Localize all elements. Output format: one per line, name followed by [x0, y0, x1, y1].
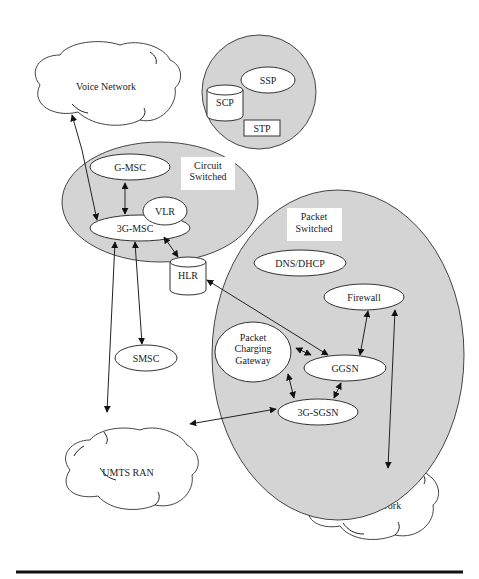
hlr-label: HLR	[178, 270, 198, 281]
g-msc-node: G-MSC	[90, 154, 170, 180]
vlr-label: VLR	[155, 206, 175, 217]
packet-charging-gateway-node: Packet Charging Gateway	[215, 322, 291, 382]
3g-sgsn-label: 3G-SGSN	[297, 407, 338, 418]
ssp-label: SSP	[260, 75, 277, 86]
edge-voice-to-3gmsc	[72, 115, 82, 150]
network-diagram: Voice Network UMTS RAN Data Network SCP …	[0, 0, 479, 579]
g-msc-label: G-MSC	[114, 162, 146, 173]
stp-node: STP	[244, 120, 280, 136]
scp-label: SCP	[216, 97, 234, 108]
hlr-node: HLR	[170, 257, 206, 295]
stp-label: STP	[253, 123, 271, 134]
umts-ran-label: UMTS RAN	[102, 467, 153, 478]
3g-sgsn-node: 3G-SGSN	[278, 399, 358, 425]
umts-ran-cloud: UMTS RAN	[66, 428, 199, 509]
ggsn-label: GGSN	[331, 363, 358, 374]
pcg-label-2: Charging	[234, 343, 271, 354]
vlr-node: VLR	[143, 197, 187, 225]
dns-dhcp-node: DNS/DHCP	[254, 250, 346, 276]
packet-switched-label-1: Packet	[301, 211, 328, 222]
circuit-switched-region: Circuit Switched G-MSC 3G-MSC VLR	[62, 142, 258, 262]
pcg-label-3: Gateway	[235, 355, 271, 366]
firewall-node: Firewall	[324, 284, 404, 310]
pcg-label-1: Packet	[240, 332, 267, 343]
scp-node: SCP	[207, 85, 243, 121]
packet-switched-region: Packet Switched DNS/DHCP Firewall Packet…	[212, 190, 464, 520]
voice-network-cloud: Voice Network	[35, 42, 180, 126]
voice-network-label: Voice Network	[76, 81, 136, 92]
3g-msc-label: 3G-MSC	[117, 223, 154, 234]
edge-3gmsc-umtsran	[107, 242, 115, 412]
ggsn-node: GGSN	[304, 355, 386, 381]
circuit-switched-label-2: Switched	[189, 171, 226, 182]
ss7-region: SCP SSP STP	[202, 35, 316, 149]
smsc-label: SMSC	[133, 353, 160, 364]
dns-dhcp-label: DNS/DHCP	[275, 258, 325, 269]
circuit-switched-label-1: Circuit	[194, 160, 222, 171]
smsc-node: SMSC	[115, 345, 177, 371]
firewall-label: Firewall	[347, 292, 381, 303]
ssp-node: SSP	[241, 67, 295, 93]
packet-switched-label-2: Switched	[295, 223, 332, 234]
